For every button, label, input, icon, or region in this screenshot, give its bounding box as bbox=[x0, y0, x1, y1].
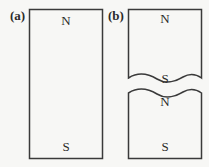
panel-a-label: (a) bbox=[10, 9, 25, 22]
magnet-b-lower-south-pole: S bbox=[155, 140, 175, 153]
magnet-b-lower-north-pole: N bbox=[155, 95, 175, 108]
magnet-b-upper-south-pole: S bbox=[155, 72, 175, 85]
magnet-diagram bbox=[0, 0, 209, 167]
magnet-a-south-pole: S bbox=[56, 140, 76, 153]
magnet-a-outline bbox=[30, 10, 103, 159]
magnet-a-north-pole: N bbox=[56, 14, 76, 27]
magnet-b-upper-north-pole: N bbox=[155, 12, 175, 25]
panel-b-label: (b) bbox=[108, 9, 124, 22]
